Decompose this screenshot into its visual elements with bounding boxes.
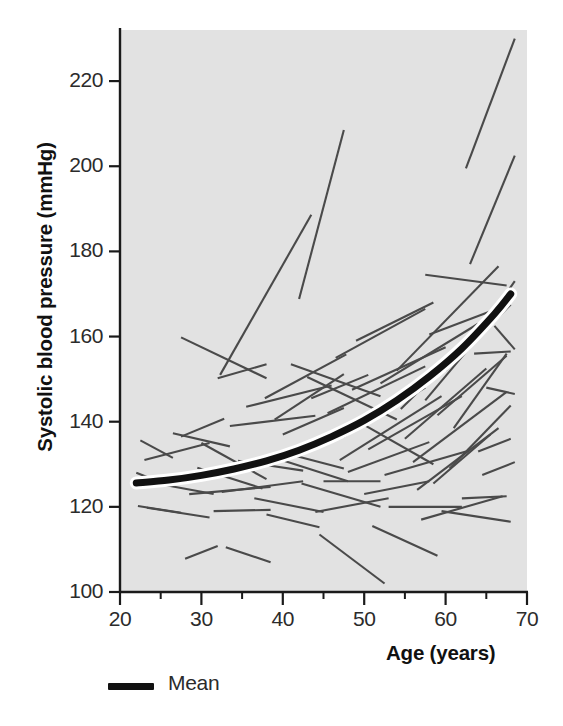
y-tick-label: 140 (51, 409, 103, 433)
x-tick-label: 40 (261, 607, 305, 631)
x-tick-label: 20 (98, 607, 142, 631)
x-tick-label: 60 (424, 607, 468, 631)
legend-mean-label: Mean (168, 671, 219, 695)
x-tick-label: 30 (179, 607, 223, 631)
y-tick-label: 100 (51, 579, 103, 603)
x-tick-label: 50 (342, 607, 386, 631)
y-tick-label: 160 (51, 324, 103, 348)
y-axis-title: Systolic blood pressure (mmHg) (33, 37, 57, 557)
figure-container: Systolic blood pressure (mmHg) Age (year… (0, 0, 563, 726)
y-tick-label: 220 (51, 68, 103, 92)
x-tick-label: 70 (505, 607, 549, 631)
legend-mean-swatch (108, 683, 154, 690)
subject-trajectory-line (214, 510, 271, 511)
y-tick-label: 120 (51, 494, 103, 518)
y-tick-label: 180 (51, 238, 103, 262)
y-tick-label: 200 (51, 153, 103, 177)
x-axis-title: Age (years) (386, 641, 495, 665)
